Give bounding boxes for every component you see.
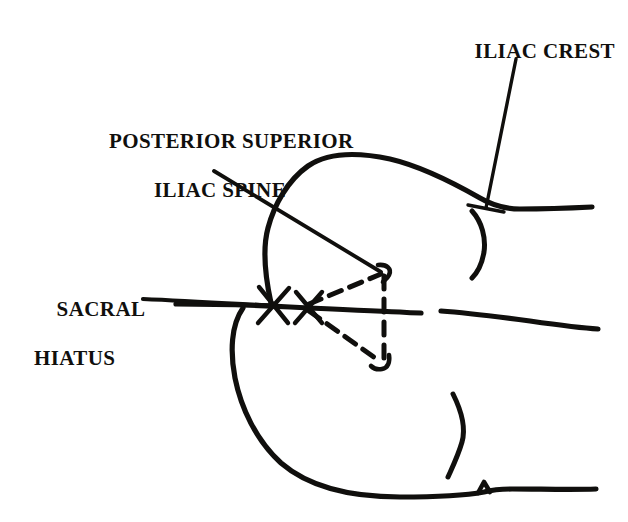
label-psis-line1: POSTERIOR SUPERIOR	[109, 129, 354, 153]
label-posterior-superior-iliac-spine: POSTERIOR SUPERIOR ILIAC SPINE	[72, 104, 368, 253]
lower-iliac-lobe-outline	[232, 308, 596, 497]
label-iliac-crest-line1: ILIAC CREST	[475, 39, 615, 63]
label-sacral-hiatus-line2: HIATUS	[34, 346, 145, 371]
label-psis-line2: ILIAC SPINE	[72, 178, 368, 203]
label-sacral-hiatus-line1: SACRAL	[57, 297, 146, 321]
dashed-triangle-upper-edge	[309, 274, 381, 304]
label-iliac-crest: ILIAC CREST	[452, 14, 615, 88]
label-sacral-hiatus: SACRAL HIATUS	[34, 272, 145, 421]
right-upper-bracket	[472, 211, 485, 278]
right-lower-bracket	[448, 394, 464, 477]
sacral-midline-right	[441, 311, 598, 329]
diagram-canvas: ILIAC CREST POSTERIOR SUPERIOR ILIAC SPI…	[0, 0, 628, 522]
